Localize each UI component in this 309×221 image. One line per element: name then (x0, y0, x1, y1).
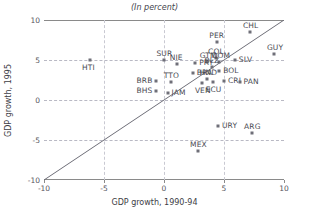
data-point-VEN (201, 82, 204, 85)
gridline-x-0 (164, 20, 165, 180)
data-point-SUR (163, 59, 166, 62)
point-label-BHS: BHS (137, 86, 153, 95)
point-label-HTI: HTI (82, 63, 95, 72)
data-point-PRY (194, 62, 197, 65)
point-label-MEX: MEX (190, 140, 207, 149)
data-point-BOL (218, 70, 221, 73)
chart-figure: (In percent) GDP growth, 1995 GDP growth… (0, 0, 309, 221)
point-label-PAN: PAN (244, 77, 259, 86)
x-tickmark-10 (284, 180, 285, 183)
data-point-NIE (176, 63, 179, 66)
data-point-HTI (88, 59, 91, 62)
x-tickmark--5 (104, 180, 105, 183)
y-axis-label: GDP growth, 1995 (4, 41, 13, 161)
x-tickmark-0 (164, 180, 165, 183)
data-point-PAN (238, 80, 241, 83)
y-tick--5: -5 (20, 136, 40, 145)
y-tick-10: 10 (20, 16, 40, 25)
x-axis-label: GDP growth, 1990-94 (0, 198, 309, 207)
data-point-ECU (212, 81, 215, 84)
data-point-TTO (170, 81, 173, 84)
x-tick-0: 0 (162, 184, 167, 193)
point-label-PER: PER (209, 31, 224, 40)
data-point-SLV (233, 59, 236, 62)
data-point-GUY (273, 53, 276, 56)
point-label-SLV: SLV (239, 55, 253, 64)
data-point-ARG (250, 131, 253, 134)
data-point-URY (217, 125, 220, 128)
point-label-BOL: BOL (223, 66, 238, 75)
data-point-PER (215, 40, 218, 43)
data-point-BRB (154, 79, 157, 82)
data-point-CRI (223, 79, 226, 82)
point-label-BLZ: BLZ (205, 56, 220, 65)
data-point-BHS (154, 90, 157, 93)
x-tickmark--10 (44, 180, 45, 183)
data-point-MEX (196, 150, 199, 153)
data-point-HND (206, 78, 209, 81)
point-label-URY: URY (222, 121, 237, 130)
gridline-x--5 (104, 20, 105, 180)
data-point-BRA (191, 71, 194, 74)
point-label-ECU: ECU (206, 85, 222, 94)
x-tick-5: 5 (222, 184, 227, 193)
point-label-NIE: NIE (170, 53, 183, 62)
y-tick-5: 5 (20, 56, 40, 65)
point-label-JAM: JAM (172, 88, 186, 97)
y-tick-0: 0 (20, 96, 40, 105)
x-tick--10: -10 (38, 184, 50, 193)
x-tick--5: -5 (100, 184, 107, 193)
point-label-BRB: BRB (137, 76, 153, 85)
chart-title: (In percent) (0, 3, 309, 12)
point-label-ARG: ARG (244, 122, 260, 131)
point-label-GUY: GUY (267, 43, 283, 52)
data-point-CHL (249, 31, 252, 34)
plot-area: HTISURNIEPRYGTMCOLDOMBLZBOLBRAHNDVENECUC… (44, 20, 284, 180)
point-label-CHL: CHL (243, 21, 258, 30)
y-tick--10: -10 (20, 176, 40, 185)
data-point-JAM (166, 91, 169, 94)
gridline-x-5 (224, 20, 225, 180)
x-tick-10: 10 (279, 184, 289, 193)
point-label-HND: HND (200, 68, 217, 77)
x-tickmark-5 (224, 180, 225, 183)
point-label-TTO: TTO (164, 71, 179, 80)
